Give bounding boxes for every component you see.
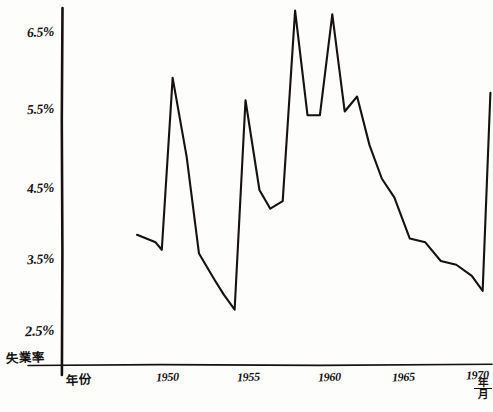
y-tick-label-3-5: 3.5% [6, 251, 55, 269]
x-tick-label-1965: 1965 [392, 370, 415, 386]
x-tick-label-1950: 1950 [156, 370, 179, 386]
x-axis-unit-year: 年 [474, 377, 492, 389]
x-axis-title: 年份 [66, 368, 93, 388]
y-axis-line [62, 8, 63, 375]
y-tick-label-5-5: 5.5% [8, 101, 55, 119]
y-tick-label-6-5: 6.5% [8, 24, 55, 42]
x-axis-unit: 年 月 [474, 377, 492, 400]
unemployment-data-line [137, 11, 490, 310]
y-tick-label-2-5: 2.5% [4, 322, 55, 342]
x-axis-line [28, 364, 492, 365]
y-tick-label-4-5: 4.5% [8, 180, 55, 198]
x-tick-label-1955: 1955 [237, 370, 260, 386]
unemployment-line-chart [0, 0, 493, 412]
y-axis-title: 失業率 [6, 346, 46, 366]
x-axis-unit-month: 月 [474, 389, 492, 400]
chart-page: 6.5% 5.5% 4.5% 3.5% 2.5% 失業率 年份 1950 195… [0, 0, 493, 412]
x-tick-label-1960: 1960 [318, 370, 341, 386]
